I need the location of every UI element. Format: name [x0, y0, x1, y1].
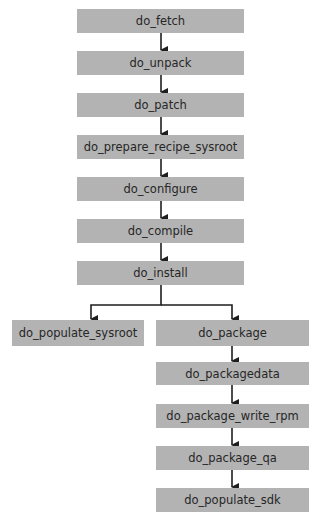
- node-do-package: do_package: [156, 320, 309, 346]
- node-do-compile: do_compile: [77, 219, 244, 243]
- node-do-populate-sysroot: do_populate_sysroot: [12, 320, 144, 346]
- node-do-install: do_install: [77, 261, 244, 285]
- node-do-fetch: do_fetch: [77, 9, 244, 33]
- node-do-package-write-rpm: do_package_write_rpm: [156, 404, 309, 428]
- node-do-prepare-recipe-sysroot: do_prepare_recipe_sysroot: [77, 135, 244, 159]
- arrow-install-populate-sysroot: [91, 285, 161, 319]
- node-do-unpack: do_unpack: [77, 51, 244, 75]
- node-do-patch: do_patch: [77, 93, 244, 117]
- node-do-package-qa: do_package_qa: [156, 446, 309, 470]
- node-do-configure: do_configure: [77, 177, 244, 201]
- node-do-populate-sdk: do_populate_sdk: [156, 488, 309, 512]
- node-do-packagedata: do_packagedata: [156, 362, 309, 385]
- arrow-install-package: [161, 305, 232, 319]
